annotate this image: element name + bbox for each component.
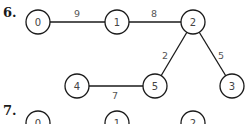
node-id-label: 0 bbox=[35, 17, 41, 28]
nodes-layer: 012453012 bbox=[26, 10, 244, 124]
labels-layer: 6. 7. bbox=[3, 5, 17, 118]
node-id-label: 3 bbox=[229, 81, 235, 92]
problem-7-label: 7. bbox=[3, 103, 17, 118]
node-id-label: 4 bbox=[74, 81, 80, 92]
graph-node-1: 1 bbox=[105, 111, 129, 124]
graph-node-3: 3 bbox=[220, 74, 244, 98]
node-id-label: 0 bbox=[35, 118, 41, 125]
edge-weight-label: 7 bbox=[112, 90, 118, 101]
edge-weight-label: 8 bbox=[151, 8, 157, 19]
node-id-label: 5 bbox=[152, 81, 158, 92]
graph-diagram: 98257 012453012 6. 7. bbox=[0, 0, 245, 124]
graph-node-5: 5 bbox=[143, 74, 167, 98]
problem-6-label: 6. bbox=[3, 5, 17, 20]
graph-node-0: 0 bbox=[26, 111, 50, 124]
node-id-label: 2 bbox=[190, 118, 196, 125]
edge-weight-label: 2 bbox=[162, 50, 168, 61]
node-id-label: 1 bbox=[114, 17, 120, 28]
graph-node-1: 1 bbox=[105, 10, 129, 34]
node-id-label: 2 bbox=[190, 17, 196, 28]
graph-node-2: 2 bbox=[181, 10, 205, 34]
graph-node-0: 0 bbox=[26, 10, 50, 34]
edge-weight-label: 5 bbox=[218, 50, 224, 61]
graph-node-2: 2 bbox=[181, 111, 205, 124]
edge-weight-label: 9 bbox=[74, 8, 80, 19]
node-id-label: 1 bbox=[114, 118, 120, 125]
graph-node-4: 4 bbox=[65, 74, 89, 98]
